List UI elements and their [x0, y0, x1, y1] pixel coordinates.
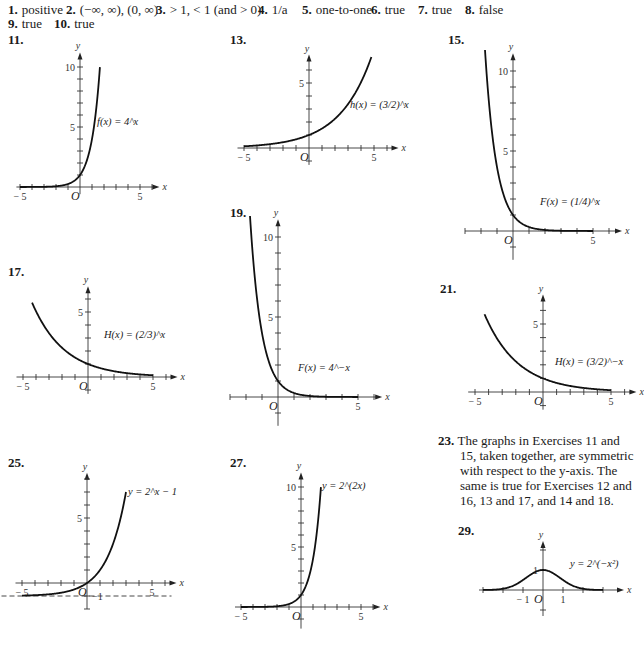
origin-label: O [534, 592, 543, 606]
function-label: F(x) = (1/4)^x [539, 196, 600, 208]
function-label: F(x) = 4^−x [297, 362, 350, 374]
x-axis-label: x [638, 386, 644, 397]
function-label: f(x) = 4^x [97, 116, 139, 128]
function-label: y = 2^(−x²) [569, 558, 619, 570]
x-tick-label: 5 [609, 396, 614, 407]
origin-label: O [269, 399, 278, 413]
x-axis-label: x [161, 181, 167, 192]
graph-15: 5510OxyF(x) = (1/4)^x [465, 41, 630, 260]
graph-29: − 111Oxyy = 2^(−x²) [479, 529, 632, 616]
x-axis-label: x [180, 371, 186, 382]
y-tick-label: 10 [263, 232, 273, 243]
y-tick-label: 5 [78, 307, 83, 318]
x-axis-label: x [179, 577, 185, 588]
function-label: H(x) = (3/2)^−x [554, 356, 623, 368]
graph-25: − 555−1Oxyy = 2^x − 1 [2, 461, 185, 609]
x-tick-label: − 5 [468, 396, 481, 407]
note-text: The graphs in Exercises 11 and 15, taken… [458, 433, 634, 508]
y-tick-label: 5 [299, 78, 304, 89]
graph-19: 5510OxyF(x) = 4^−x [230, 207, 390, 426]
x-arrow-icon [373, 605, 380, 610]
y-arrow-icon [307, 55, 312, 62]
y-tick-label: 1 [533, 565, 538, 576]
y-axis-label: y [75, 40, 81, 51]
y-tick-label: 10 [286, 482, 296, 493]
function-curve [241, 487, 321, 607]
origin-label: O [292, 609, 301, 623]
note-number: 23. [438, 433, 454, 448]
function-label: H(x) = (2/3)^x [103, 329, 165, 341]
x-arrow-icon [375, 395, 382, 400]
exercise-23-note: 23. The graphs in Exercises 11 and 15, t… [438, 433, 638, 508]
x-tick-label: − 1 [516, 594, 529, 605]
x-axis-label: x [401, 142, 407, 153]
x-tick-label: 5 [138, 191, 143, 202]
x-tick-label: 5 [356, 401, 361, 412]
graph-11: − 55510Oxyf(x) = 4^x [13, 40, 167, 203]
y-arrow-icon [299, 472, 304, 479]
x-axis-label: x [384, 391, 390, 402]
graph-21: − 555OxyH(x) = (3/2)^−x [468, 283, 644, 410]
y-tick-label: 5 [268, 312, 273, 323]
x-arrow-icon [170, 581, 177, 586]
function-label: h(x) = (3/2)^x [350, 99, 409, 111]
origin-label: O [71, 189, 80, 203]
x-tick-label: 1 [561, 594, 566, 605]
graph-13: − 555Oxyh(x) = (3/2)^x [237, 43, 409, 165]
y-arrow-icon [541, 295, 546, 302]
x-axis-label: x [624, 225, 630, 236]
origin-label: O [300, 150, 309, 164]
y-tick-label: 5 [70, 122, 75, 133]
y-tick-label: 5 [533, 319, 538, 330]
y-axis-label: y [538, 283, 544, 294]
graphs-canvas: − 55510Oxyf(x) = 4^x− 555Oxyh(x) = (3/2)… [0, 0, 644, 647]
y-axis-label: y [82, 461, 88, 472]
y-axis-label: y [508, 41, 514, 52]
x-tick-label: − 5 [16, 381, 29, 392]
y-tick-label: 10 [65, 62, 75, 73]
y-arrow-icon [78, 52, 83, 59]
x-arrow-icon [617, 588, 624, 593]
x-tick-label: 5 [372, 152, 377, 163]
function-label: y = 2^(2x) [321, 480, 366, 492]
y-tick-label: 5 [503, 146, 508, 157]
x-tick-label: − 5 [237, 152, 250, 163]
y-arrow-icon [276, 219, 281, 226]
x-arrow-icon [615, 229, 622, 234]
y-arrow-icon [86, 286, 91, 293]
x-arrow-icon [171, 375, 178, 380]
x-axis-label: x [382, 601, 388, 612]
x-tick-label: − 5 [13, 191, 26, 202]
y-tick-label: 5 [77, 513, 82, 524]
x-tick-label: 5 [151, 381, 156, 392]
y-arrow-icon [541, 541, 546, 548]
y-tick-label: 5 [291, 542, 296, 553]
y-axis-label: y [296, 460, 302, 471]
x-axis-label: x [626, 584, 632, 595]
function-curve [485, 314, 611, 390]
x-arrow-icon [392, 146, 399, 151]
y-axis-label: y [273, 207, 279, 218]
x-tick-label: 5 [359, 611, 364, 622]
x-arrow-icon [629, 390, 636, 395]
graph-17: − 555OxyH(x) = (2/3)^x [16, 274, 185, 394]
y-axis-label: y [304, 43, 310, 54]
origin-label: O [504, 233, 513, 247]
function-label: y = 2^x − 1 [127, 486, 177, 497]
origin-label: O [534, 394, 543, 408]
x-tick-label: 5 [591, 235, 596, 246]
y-axis-label: y [538, 529, 544, 540]
graph-27: − 55510Oxyy = 2^(2x) [234, 460, 388, 628]
y-arrow-icon [511, 53, 516, 60]
function-curve [20, 67, 100, 187]
x-tick-label: − 5 [234, 611, 247, 622]
origin-label: O [79, 379, 88, 393]
x-arrow-icon [152, 185, 159, 190]
y-tick-label: 10 [498, 66, 508, 77]
y-axis-label: y [83, 274, 89, 285]
